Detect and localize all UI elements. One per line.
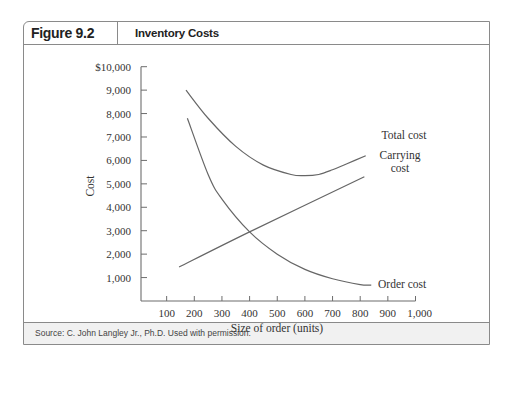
total-cost-label: Total cost — [382, 129, 428, 141]
y-tick-label: 4,000 — [106, 201, 131, 213]
y-tick-label: 5,000 — [106, 178, 131, 190]
x-tick-label: 800 — [352, 307, 369, 319]
x-tick-label: 1,000 — [407, 307, 432, 319]
y-tick-label: 2,000 — [106, 248, 131, 260]
total-cost-line — [186, 90, 366, 176]
series-lines — [179, 90, 371, 285]
x-tick-label: 500 — [269, 307, 286, 319]
carrying-cost-label: cost — [391, 162, 410, 174]
y-tick-label: 7,000 — [106, 131, 131, 143]
x-axis-label: Size of order (units) — [231, 322, 323, 335]
y-tick-label: 6,000 — [106, 154, 131, 166]
y-tick-label: 3,000 — [106, 225, 131, 237]
y-tick-label: $10,000 — [95, 61, 131, 73]
x-tick-label: 100 — [158, 307, 175, 319]
x-tick-label: 400 — [241, 307, 258, 319]
order-cost-line — [187, 118, 371, 285]
x-axis-ticks: 1002003004005006007008009001,000 — [158, 296, 432, 319]
x-tick-label: 600 — [297, 307, 314, 319]
series-labels: Total costCarryingcostOrder cost — [378, 129, 427, 290]
x-tick-label: 700 — [324, 307, 341, 319]
x-tick-label: 300 — [214, 307, 231, 319]
order-cost-label: Order cost — [378, 278, 427, 290]
y-axis-ticks: 1,0002,0003,0004,0005,0006,0007,0008,000… — [95, 61, 147, 284]
carrying-cost-line — [179, 177, 364, 267]
y-tick-label: 1,000 — [106, 272, 131, 284]
x-tick-label: 900 — [380, 307, 397, 319]
y-tick-label: 8,000 — [106, 108, 131, 120]
inventory-costs-chart: 1,0002,0003,0004,0005,0006,0007,0008,000… — [0, 0, 511, 396]
x-tick-label: 200 — [186, 307, 203, 319]
y-axis-label: Cost — [84, 175, 96, 197]
y-tick-label: 9,000 — [106, 84, 131, 96]
carrying-cost-label: Carrying — [380, 149, 421, 162]
